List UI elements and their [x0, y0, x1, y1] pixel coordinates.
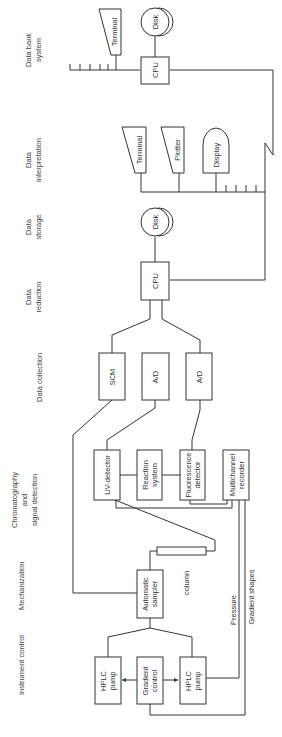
- scm-label: SCM: [108, 369, 117, 386]
- section-mechanization: Mechanization: [17, 562, 26, 610]
- disk-storage-label: Disk: [151, 214, 160, 229]
- reaction-system-label: Reaction: [141, 460, 150, 490]
- automatic-sampler[interactable]: Automatic sampler: [137, 570, 163, 618]
- section-data-reduction-2: reduction: [34, 282, 43, 313]
- automatic-sampler-label-2: sampler: [150, 580, 159, 607]
- plotter[interactable]: Plotter: [161, 127, 184, 173]
- gradient-control-label: Gradient: [141, 666, 150, 696]
- terminal-interpretation[interactable]: Terminal: [122, 127, 146, 173]
- reaction-system-label-2: system: [150, 463, 159, 487]
- gradient-shapes-label: Gradient shapes: [247, 569, 256, 624]
- hplc-pump-2[interactable]: HPLC pump: [180, 657, 206, 704]
- section-instrument-control: Instrument control: [17, 635, 26, 695]
- disk-bank-label: Disk: [151, 14, 160, 29]
- column-label: column: [182, 571, 191, 595]
- ad-converter-2-label: A/D: [195, 370, 204, 383]
- fluorescence-detector-label: Fluorescence: [184, 452, 193, 497]
- display[interactable]: Display: [203, 128, 229, 173]
- section-chromatography: Chromatography: [10, 472, 19, 528]
- cpu-bank[interactable]: CPU: [141, 57, 169, 84]
- gradient-control-label-2: control: [150, 669, 159, 692]
- plotter-label: Plotter: [173, 139, 182, 161]
- hplc-pump-2-label: HPLC: [184, 670, 193, 691]
- cpu-reduction[interactable]: CPU: [141, 262, 169, 300]
- fluorescence-detector[interactable]: Fluorescence detector: [180, 450, 205, 500]
- uv-detector[interactable]: UV-detector: [94, 450, 120, 500]
- scm-box[interactable]: SCM: [99, 353, 125, 400]
- section-data-reduction: Data: [24, 288, 33, 305]
- hplc-pump-1[interactable]: HPLC pump: [95, 657, 121, 704]
- multichannel-recorder-label-2: recorder: [237, 461, 246, 489]
- display-label: Display: [212, 142, 221, 167]
- section-data-bank: Data bank: [24, 33, 33, 67]
- fluorescence-detector-label-2: detector: [193, 461, 202, 489]
- reaction-system[interactable]: Reaction system: [137, 450, 162, 500]
- section-data-storage: Data: [24, 218, 33, 235]
- section-labels: Instrument control Mechanization Chromat…: [10, 33, 44, 695]
- multichannel-recorder-label: Multichannel: [228, 454, 237, 496]
- cpu-bank-label: CPU: [151, 62, 160, 78]
- uv-detector-label: UV-detector: [103, 455, 112, 495]
- ad-converter-1[interactable]: A/D: [142, 353, 169, 400]
- cpu-reduction-label: CPU: [151, 273, 160, 289]
- disk-bank[interactable]: Disk: [141, 8, 173, 36]
- terminal-bank[interactable]: Terminal: [99, 9, 121, 55]
- hplc-pump-2-label-2: pump: [193, 672, 202, 691]
- section-data-bank-2: system: [34, 38, 43, 62]
- section-data-interpretation: Data: [24, 151, 33, 168]
- section-data-collection: Data collection: [35, 353, 44, 402]
- hplc-pump-1-label-2: pump: [108, 672, 117, 691]
- automatic-sampler-label: Automatic: [141, 577, 150, 611]
- section-chromatography-and: and: [20, 494, 29, 507]
- section-signal-detection: signal detection: [30, 474, 39, 526]
- multichannel-recorder[interactable]: Multichannel recorder: [223, 450, 249, 500]
- hplc-pump-1-label: HPLC: [99, 670, 108, 691]
- pressure-label: Pressure: [229, 595, 238, 625]
- section-data-interpretation-2: interpretation: [34, 138, 43, 182]
- section-data-storage-2: storage: [34, 214, 43, 239]
- column[interactable]: column: [157, 547, 206, 595]
- hplc-system-diagram: Instrument control Mechanization Chromat…: [0, 0, 282, 737]
- disk-storage[interactable]: Disk: [141, 208, 173, 236]
- terminal-interpretation-label: Terminal: [135, 135, 144, 164]
- terminal-bank-label: Terminal: [110, 17, 119, 46]
- gradient-control[interactable]: Gradient control: [137, 657, 163, 704]
- ad-converter-1-label: A/D: [151, 370, 160, 383]
- ad-converter-2[interactable]: A/D: [186, 353, 212, 400]
